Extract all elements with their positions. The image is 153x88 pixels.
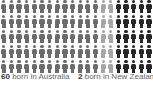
person-icon <box>138 45 146 60</box>
person-icon <box>145 0 153 15</box>
person-icon <box>23 0 31 15</box>
person-icon <box>61 15 69 30</box>
person-icon <box>99 45 107 60</box>
person-icon <box>115 30 123 45</box>
person-icon <box>107 0 115 15</box>
person-icon <box>84 0 92 15</box>
person-icon <box>31 0 39 15</box>
legend-label: born in Australia <box>12 72 69 81</box>
person-icon <box>145 45 153 60</box>
person-icon <box>92 0 100 15</box>
person-icon <box>31 45 39 60</box>
person-icon <box>46 15 54 30</box>
person-icon <box>145 15 153 30</box>
person-icon <box>46 0 54 15</box>
person-icon <box>92 15 100 30</box>
person-icon <box>84 30 92 45</box>
person-icon <box>122 15 130 30</box>
person-icon <box>76 15 84 30</box>
person-icon <box>76 0 84 15</box>
legend-value: 60 <box>1 72 10 81</box>
person-icon <box>38 0 46 15</box>
person-icon <box>15 15 23 30</box>
person-icon <box>38 45 46 60</box>
person-icon <box>61 45 69 60</box>
person-icon <box>84 15 92 30</box>
person-icon <box>145 30 153 45</box>
person-icon <box>122 0 130 15</box>
person-icon <box>115 0 123 15</box>
person-icon <box>130 0 138 15</box>
person-icon <box>61 0 69 15</box>
pictogram-row <box>0 0 153 15</box>
person-icon <box>31 15 39 30</box>
legend-item-australia: 60 born in Australia <box>1 72 70 81</box>
person-icon <box>46 30 54 45</box>
person-icon <box>115 45 123 60</box>
person-icon <box>53 0 61 15</box>
person-icon <box>15 45 23 60</box>
person-icon <box>130 45 138 60</box>
person-icon <box>0 0 8 15</box>
person-icon <box>115 15 123 30</box>
person-icon <box>38 15 46 30</box>
legend-value: 2 <box>78 72 82 81</box>
legend-item-new-zealand: 2 born in New Zealand <box>78 72 153 81</box>
pictogram-row <box>0 45 153 60</box>
person-icon <box>53 15 61 30</box>
person-icon <box>69 15 77 30</box>
person-icon <box>122 45 130 60</box>
pictogram-row <box>0 15 153 30</box>
person-icon <box>8 15 16 30</box>
person-icon <box>46 45 54 60</box>
pictogram-grid <box>0 0 153 75</box>
pictogram-row <box>0 30 153 45</box>
person-icon <box>8 0 16 15</box>
person-icon <box>38 30 46 45</box>
person-icon <box>23 30 31 45</box>
person-icon <box>69 30 77 45</box>
person-icon <box>99 15 107 30</box>
person-icon <box>8 30 16 45</box>
person-icon <box>61 30 69 45</box>
person-icon <box>138 15 146 30</box>
person-icon <box>99 0 107 15</box>
person-icon <box>31 30 39 45</box>
person-icon <box>99 30 107 45</box>
person-icon <box>53 30 61 45</box>
person-icon <box>122 30 130 45</box>
person-icon <box>69 45 77 60</box>
person-icon <box>76 45 84 60</box>
person-icon <box>15 0 23 15</box>
person-icon <box>107 45 115 60</box>
person-icon <box>0 45 8 60</box>
person-icon <box>0 30 8 45</box>
person-icon <box>15 30 23 45</box>
person-icon <box>23 15 31 30</box>
person-icon <box>130 30 138 45</box>
person-icon <box>84 45 92 60</box>
person-icon <box>92 45 100 60</box>
legend-label: born in New Zealand <box>85 72 153 81</box>
person-icon <box>69 0 77 15</box>
person-icon <box>107 30 115 45</box>
person-icon <box>92 30 100 45</box>
person-icon <box>23 45 31 60</box>
person-icon <box>53 45 61 60</box>
person-icon <box>138 0 146 15</box>
person-icon <box>107 15 115 30</box>
person-icon <box>130 15 138 30</box>
person-icon <box>76 30 84 45</box>
person-icon <box>8 45 16 60</box>
person-icon <box>138 30 146 45</box>
person-icon <box>0 15 8 30</box>
